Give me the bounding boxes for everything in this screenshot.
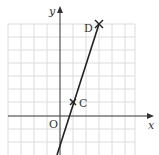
point-d-label: D	[84, 22, 93, 35]
coordinate-diagram: C D O x y	[0, 0, 159, 155]
point-c-label: C	[79, 97, 87, 110]
origin-label: O	[49, 118, 58, 131]
y-axis-label: y	[48, 5, 56, 18]
grid	[8, 24, 135, 155]
x-axis-label: x	[148, 119, 155, 132]
y-axis	[57, 6, 63, 155]
x-axis	[8, 113, 154, 119]
